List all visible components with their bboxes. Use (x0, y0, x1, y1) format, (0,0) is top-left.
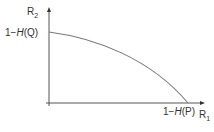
y-axis-label-subscript: 2 (34, 12, 38, 19)
x-intercept-arg: (P) (182, 106, 195, 117)
y-axis-arrow-icon (47, 7, 51, 12)
x-axis-label-subscript: 1 (206, 115, 210, 122)
capacity-curve (49, 32, 188, 103)
y-intercept-prefix: 1− (5, 27, 16, 38)
x-axis-label: R1 (199, 110, 210, 121)
x-intercept-prefix: 1− (163, 106, 174, 117)
y-intercept-func: H (16, 27, 23, 38)
x-intercept-label: 1−H(P) (163, 107, 195, 117)
y-intercept-label: 1−H(Q) (5, 28, 38, 38)
y-axis-label: R2 (27, 7, 38, 18)
x-axis-arrow-icon (200, 101, 205, 105)
y-intercept-arg: (Q) (24, 27, 38, 38)
x-intercept-func: H (174, 106, 181, 117)
